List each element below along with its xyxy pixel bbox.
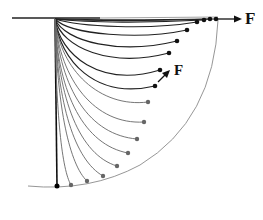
force-arrow-top xyxy=(218,16,242,23)
force-label-mid: F xyxy=(174,62,183,79)
baseline-extension xyxy=(100,17,218,18)
force-label-top: F xyxy=(245,9,255,29)
curve-family-dark xyxy=(55,19,216,89)
elastica-diagram xyxy=(0,0,263,220)
rod-tip-dot xyxy=(55,184,60,189)
